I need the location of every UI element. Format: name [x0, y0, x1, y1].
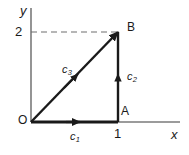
vector-label-c1: c1 [70, 131, 80, 142]
vector-label-c2-subscript: 2 [133, 75, 137, 84]
point-label-origin: O [18, 114, 27, 126]
vector-label-c3-base: c [62, 63, 68, 75]
vector-label-c3-subscript: 3 [68, 68, 72, 77]
y-axis-tick-label-2: 2 [15, 25, 22, 38]
x-axis-tick-label-1: 1 [114, 127, 121, 140]
vector-label-c1-subscript: 1 [76, 135, 80, 144]
point-label-b: B [127, 21, 135, 33]
vector-label-c3: c3 [62, 64, 72, 75]
x-axis-label: x [171, 128, 178, 141]
vector-label-c2-base: c [127, 70, 133, 82]
vector-label-c2: c2 [127, 71, 137, 82]
y-axis-label: y [20, 4, 27, 17]
vector-diagram-figure: y x 2 1 O A B c1 c2 c3 [0, 0, 189, 155]
figure-canvas [0, 0, 189, 155]
vector-label-c1-base: c [70, 130, 76, 142]
point-label-a: A [121, 105, 129, 117]
